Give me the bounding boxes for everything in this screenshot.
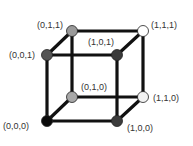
vertex-v000	[42, 116, 53, 127]
vertex-label-v001: (0,0,1)	[9, 50, 35, 60]
vertex-v111	[138, 26, 149, 37]
vertex-v101	[112, 50, 123, 61]
vertex-label-v111: (1,1,1)	[151, 20, 177, 30]
vertex-label-v100: (1,0,0)	[127, 123, 153, 133]
vertex-label-v000: (0,0,0)	[3, 121, 29, 131]
vertex-v100	[112, 116, 123, 127]
vertex-label-v101: (1,0,1)	[88, 37, 114, 47]
vertex-v001	[42, 50, 53, 61]
vertex-label-v011: (0,1,1)	[37, 20, 63, 30]
vertex-v011	[67, 26, 78, 37]
vertex-label-v110: (1,1,0)	[153, 93, 179, 103]
vertex-v010	[67, 92, 78, 103]
vertex-v110	[138, 92, 149, 103]
vertex-label-v010: (0,1,0)	[81, 82, 107, 92]
